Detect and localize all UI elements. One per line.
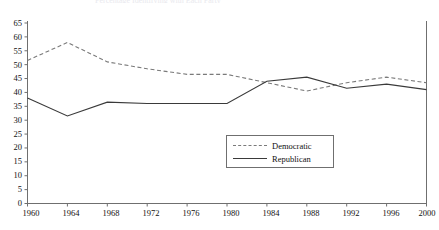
legend-swatch-dashed-icon	[233, 145, 267, 146]
series-line-democratic	[28, 42, 427, 91]
chart-legend: Democratic Republican	[226, 135, 334, 168]
line-chart: Percentage Identifying with Each Party 6…	[0, 0, 439, 230]
legend-swatch-solid-icon	[233, 158, 267, 159]
legend-label-republican: Republican	[272, 154, 311, 164]
series-line-republican	[28, 77, 427, 116]
axis-lines	[27, 21, 427, 204]
plot-area	[0, 0, 439, 230]
legend-item-republican: Republican	[233, 152, 311, 165]
legend-label-democratic: Democratic	[272, 141, 312, 151]
legend-item-democratic: Democratic	[233, 139, 312, 152]
